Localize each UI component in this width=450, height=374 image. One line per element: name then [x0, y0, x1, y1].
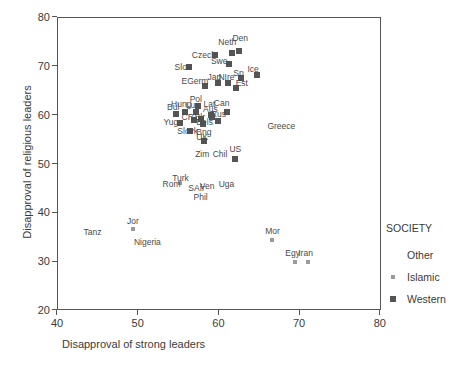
legend-title: SOCIETY	[386, 222, 450, 234]
data-point-mor	[270, 238, 274, 242]
y-tick-mark	[52, 16, 57, 17]
y-tick-mark	[52, 163, 57, 164]
point-label-zim: Zim	[195, 150, 209, 159]
legend-marker-islamic-icon	[386, 275, 400, 279]
x-tick-label: 60	[206, 317, 230, 329]
x-tick-mark	[56, 310, 57, 315]
legend-label: Islamic	[407, 271, 440, 283]
point-label-egerm: EGerm	[182, 76, 209, 85]
data-point-iran	[306, 260, 310, 264]
point-label-rus: Rus	[211, 110, 226, 119]
y-tick-label: 30	[38, 253, 50, 269]
point-label-chil: Chil	[213, 149, 228, 158]
legend-entry-other[interactable]: Other	[386, 244, 450, 266]
point-label-nigeria: Nigeria	[134, 238, 161, 247]
x-tick-mark	[137, 310, 138, 315]
x-tick-mark	[379, 310, 380, 315]
y-tick-label: 40	[38, 204, 50, 220]
legend-label: Other	[407, 249, 433, 261]
data-point-us	[232, 156, 238, 162]
point-label-greece: Greece	[267, 122, 295, 131]
scatter-plot-figure: 20304050607080 4050607080 DenNethCzechSw…	[0, 0, 450, 374]
y-tick-label: 50	[38, 156, 50, 172]
point-label-swe: Swe	[211, 57, 228, 66]
x-tick-mark	[218, 310, 219, 315]
point-label-sp: Sp	[233, 68, 243, 77]
y-tick-mark	[52, 212, 57, 213]
y-tick-mark	[52, 114, 57, 115]
legend: SOCIETY OtherIslamicWestern	[386, 222, 450, 310]
legend-entry-islamic[interactable]: Islamic	[386, 266, 450, 288]
x-tick-label: 80	[368, 317, 392, 329]
point-label-iran: Iran	[298, 248, 313, 257]
x-tick-mark	[299, 310, 300, 315]
point-label-jap: Jap	[208, 72, 222, 81]
y-tick-label: 80	[38, 9, 50, 25]
legend-label: Western	[407, 293, 446, 305]
data-point-jap	[215, 80, 221, 86]
x-tick-label: 40	[45, 317, 69, 329]
x-tick-label: 50	[126, 317, 150, 329]
x-axis-title: Disapproval of strong leaders	[62, 338, 205, 350]
plot-top-border	[57, 17, 380, 18]
point-label-us: US	[229, 144, 241, 153]
point-label-slovk: Slovk	[177, 127, 198, 136]
y-tick-mark	[52, 261, 57, 262]
point-label-neth: Neth	[218, 38, 236, 47]
point-label-uk: UK	[196, 132, 208, 141]
legend-entries: OtherIslamicWestern	[386, 244, 450, 310]
legend-entry-western[interactable]: Western	[386, 288, 450, 310]
point-label-tanz: Tanz	[84, 228, 102, 237]
data-point-den	[236, 48, 242, 54]
point-label-jor: Jor	[127, 216, 139, 225]
point-label-cr: CR	[182, 113, 194, 122]
point-label-phil: Phil	[194, 192, 208, 201]
point-label-slov: Slov	[175, 63, 192, 72]
y-tick-mark	[52, 65, 57, 66]
point-label-yug: Yug	[163, 117, 178, 126]
plot-right-border	[380, 17, 381, 310]
point-label-mor: Mor	[265, 226, 280, 235]
point-label-rom: Rom	[163, 180, 181, 189]
y-tick-label: 60	[38, 107, 50, 123]
point-label-ven: Ven	[200, 182, 215, 191]
y-tick-label: 70	[38, 58, 50, 74]
data-point-egy	[293, 260, 297, 264]
data-point-neth	[229, 50, 235, 56]
x-tick-label: 70	[287, 317, 311, 329]
legend-marker-western-icon	[386, 296, 400, 302]
point-label-est: Est	[236, 79, 248, 88]
point-label-bul: Bul	[167, 103, 179, 112]
data-point-jor	[131, 227, 135, 231]
point-label-bels: Bels	[196, 118, 213, 127]
y-axis-title: Disapproval of religious leaders	[21, 47, 33, 277]
point-label-ice: Ice	[247, 65, 258, 74]
y-tick-label: 20	[38, 302, 50, 318]
point-label-uga: Uga	[219, 180, 235, 189]
